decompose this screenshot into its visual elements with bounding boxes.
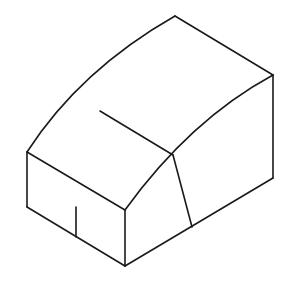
top-left-curved-edge	[27, 16, 175, 152]
top-right-edge	[175, 16, 273, 75]
left-top-edge	[27, 152, 125, 210]
bottom-right-edge	[125, 178, 273, 266]
crease-line	[173, 155, 192, 227]
drawing-canvas	[0, 0, 287, 300]
inner-top-line	[100, 111, 173, 155]
front-curved-edge	[125, 75, 273, 210]
block-line-drawing	[0, 0, 287, 300]
